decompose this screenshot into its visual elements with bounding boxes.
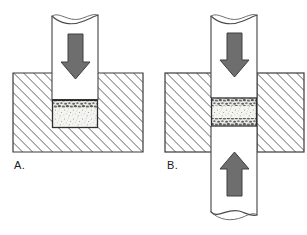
panel-label-b: B. <box>167 160 178 171</box>
panel-a-drawing <box>0 0 153 235</box>
granular-specimen-b <box>212 98 257 126</box>
hatched-block-right-b <box>257 73 304 152</box>
specimen-band-top-a <box>53 100 98 108</box>
figure-root: A. <box>0 0 307 235</box>
specimen-band-bottom-b <box>212 118 257 126</box>
panel-a: A. <box>0 0 153 235</box>
panel-b: B. <box>153 0 307 235</box>
panel-label-a: A. <box>14 160 25 171</box>
panel-b-drawing <box>153 0 307 235</box>
specimen-band-top-b <box>212 98 257 106</box>
granular-specimen-a <box>53 100 98 128</box>
hatched-block-left-b <box>165 73 212 152</box>
